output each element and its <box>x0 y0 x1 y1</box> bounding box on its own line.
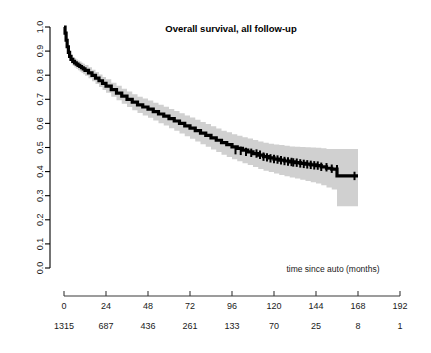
risk-table-count: 1315 <box>54 321 74 331</box>
y-axis-tick-label: 0.6 <box>35 117 45 130</box>
risk-table-count: 436 <box>140 321 155 331</box>
y-axis-tick-label: 0.2 <box>35 214 45 227</box>
page-title: Overall survival, all follow-up <box>165 23 297 34</box>
risk-table-count: 25 <box>311 321 321 331</box>
risk-table-count: 8 <box>355 321 360 331</box>
kaplan-meier-plot: Overall survival, all follow-up 0.00.10.… <box>0 0 431 353</box>
y-axis-tick-label: 1.0 <box>35 21 45 34</box>
x-axis-tick-label: 48 <box>143 301 153 311</box>
y-axis-tick-label: 0.7 <box>35 93 45 106</box>
risk-table-count: 133 <box>224 321 239 331</box>
y-axis-tick-label: 0.4 <box>35 165 45 178</box>
risk-table-count: 687 <box>98 321 113 331</box>
y-axis-tick-label: 0.8 <box>35 69 45 82</box>
x-axis-tick-label: 0 <box>61 301 66 311</box>
x-axis-tick-label: 144 <box>308 301 323 311</box>
survival-chart-figure: Overall survival, all follow-up 0.00.10.… <box>0 0 431 353</box>
risk-table-count: 261 <box>182 321 197 331</box>
x-axis-tick-label: 72 <box>185 301 195 311</box>
x-axis-tick-label: 168 <box>350 301 365 311</box>
y-axis-tick-label: 0.0 <box>35 262 45 275</box>
risk-table-count: 70 <box>269 321 279 331</box>
x-axis-tick-label: 120 <box>266 301 281 311</box>
y-axis-tick-label: 0.5 <box>35 141 45 154</box>
y-axis-tick-label: 0.3 <box>35 189 45 202</box>
x-axis-tick-label: 192 <box>392 301 407 311</box>
x-axis-tick-label: 24 <box>101 301 111 311</box>
y-axis-tick-label: 0.1 <box>35 238 45 251</box>
x-axis-label: time since auto (months) <box>286 264 379 274</box>
risk-table-count: 1 <box>397 321 402 331</box>
y-axis-tick-label: 0.9 <box>35 45 45 58</box>
x-axis-tick-label: 96 <box>227 301 237 311</box>
